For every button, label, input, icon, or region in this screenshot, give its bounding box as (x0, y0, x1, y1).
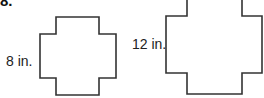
dimension-label-small: 8 in. (6, 53, 32, 69)
dimension-label-large: 12 in. (132, 36, 166, 52)
cross-shape-large (166, 0, 262, 94)
cross-shape-small (40, 17, 116, 95)
